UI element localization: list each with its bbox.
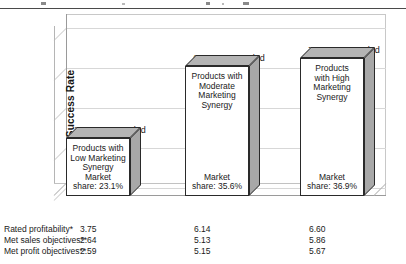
- row-label-met-sales-objectives: Met sales objectives**: [4, 235, 87, 246]
- cell-met-sales-high: 5.86: [309, 235, 349, 246]
- bar-moderate-synergy: Products with Moderate Marketing Synergy…: [185, 66, 249, 196]
- data-table: Rated profitability* 3.75 6.14 6.60 Met …: [4, 224, 404, 257]
- table-row: Met sales objectives** 2.64 5.13 5.86: [4, 235, 404, 246]
- cell-met-sales-low: 2.64: [80, 235, 120, 246]
- cell-met-profit-low: 2.59: [80, 246, 120, 257]
- bar-front-face-0: Products with Low Marketing Synergy Mark…: [66, 138, 130, 196]
- y-axis-back: [54, 26, 55, 184]
- bar-low-synergy: Products with Low Marketing Synergy Mark…: [66, 138, 130, 196]
- bar-side-face-1: [249, 55, 260, 196]
- table-row: Rated profitability* 3.75 6.14 6.60: [4, 224, 404, 235]
- bar-front-face-2: Products with High Marketing Synergy Mar…: [300, 58, 364, 196]
- cell-rated-profitability-moderate: 6.14: [194, 224, 234, 235]
- bar-share-2: Market share: 36.9%: [307, 173, 357, 192]
- chart-figure: 100% 80% 60% 40% 20% 0% Success Rate 30.…: [0, 0, 406, 264]
- cell-met-profit-moderate: 5.15: [194, 246, 234, 257]
- plot-area: 100% 80% 60% 40% 20% 0% Success Rate 30.…: [54, 14, 386, 208]
- table-row: Met profit objectives** 2.59 5.15 5.67: [4, 246, 404, 257]
- top-rule: [0, 8, 406, 9]
- cell-rated-profitability-low: 3.75: [80, 224, 120, 235]
- bar-caption-1: Products with Moderate Marketing Synergy: [191, 72, 242, 110]
- depth-tick-100: [54, 28, 67, 41]
- bar-front-face-1: Products with Moderate Marketing Synergy…: [185, 66, 249, 196]
- row-label-met-profit-objectives: Met profit objectives**: [4, 246, 86, 257]
- bar-side-face-2: [364, 47, 375, 196]
- row-label-rated-profitability: Rated profitability*: [4, 224, 73, 235]
- bar-share-1: Market share: 35.6%: [192, 173, 242, 192]
- cell-met-profit-high: 5.67: [309, 246, 349, 257]
- cell-met-sales-moderate: 5.13: [194, 235, 234, 246]
- bar-caption-2: Products with High Marketing Synergy: [313, 64, 350, 102]
- bar-side-face-0: [130, 127, 141, 196]
- bar-caption-0: Products with Low Marketing Synergy: [70, 144, 125, 173]
- bar-share-0: Market share: 23.1%: [73, 173, 123, 192]
- cropped-text-sliver: [0, 0, 406, 7]
- bar-high-synergy: Products with High Marketing Synergy Mar…: [300, 58, 364, 196]
- gridline-100: [66, 28, 386, 29]
- cell-rated-profitability-high: 6.60: [309, 224, 349, 235]
